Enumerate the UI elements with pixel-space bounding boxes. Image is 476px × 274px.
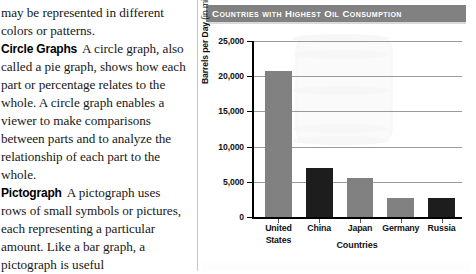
y-axis-tick-mark [247, 41, 253, 42]
y-axis-tick-label: 0 [239, 212, 244, 222]
bar-chart-plot-area: 05,00010,00015,00020,00025,000 United St… [252, 41, 462, 219]
y-axis-tick-label: 25,000 [218, 36, 244, 46]
x-axis-tick-label: China [307, 223, 331, 235]
y-axis-line [252, 41, 254, 219]
y-axis-tick-mark [247, 111, 253, 112]
y-axis-tick-label: 10,000 [218, 142, 244, 152]
y-axis-tick-label: 15,000 [218, 106, 244, 116]
gridline [254, 41, 462, 42]
y-axis-title: Barrels per Day (in millions) [200, 0, 210, 84]
page-edge [466, 0, 476, 271]
x-axis-tick-label: Japan [348, 223, 373, 235]
figure-title: Countries with Highest Oil Consumption [206, 5, 468, 22]
x-axis-line [252, 217, 462, 219]
bar [347, 178, 374, 217]
bar [306, 168, 333, 217]
y-axis-title-main: Barrels per Day [200, 22, 210, 84]
bar [387, 198, 414, 217]
paragraph-intro: may be represented in different colors o… [1, 4, 189, 40]
y-axis-tick-mark [247, 217, 253, 218]
figure-title-bar: Countries with Highest Oil Consumption [206, 5, 468, 22]
paragraph-circle-graphs-text: A circle graph, also called a pie graph,… [1, 41, 186, 182]
heading-pictograph: Pictograph [1, 186, 62, 200]
page-bottom-edge [203, 262, 469, 271]
y-axis-tick-mark [247, 182, 253, 183]
column-divider [197, 0, 198, 271]
x-axis-title: Countries [252, 240, 462, 250]
bar [265, 71, 292, 217]
y-axis-tick-label: 20,000 [218, 71, 244, 81]
y-axis-title-unit: (in millions) [200, 0, 210, 20]
article-text-column: may be represented in different colors o… [0, 0, 193, 271]
bar [428, 198, 455, 217]
x-axis-tick-label: Russia [428, 223, 456, 235]
y-axis-tick-label: 5,000 [223, 177, 244, 187]
figure-title-shadow [208, 22, 470, 24]
paragraph-pictograph: PictographA pictograph uses rows of smal… [1, 184, 189, 274]
paragraph-circle-graphs: Circle GraphsA circle graph, also called… [1, 40, 189, 184]
y-axis-tick-mark [247, 147, 253, 148]
figure-panel: Countries with Highest Oil Consumption B… [203, 0, 476, 271]
x-axis-tick-label: Germany [382, 223, 419, 235]
y-axis-tick-mark [247, 76, 253, 77]
paragraph-intro-text: may be represented in different colors o… [1, 5, 164, 38]
heading-circle-graphs: Circle Graphs [1, 42, 77, 56]
